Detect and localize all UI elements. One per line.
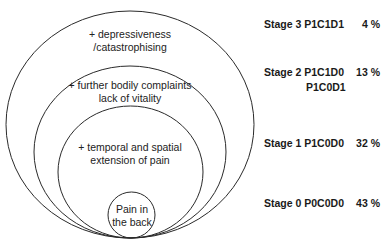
ring-label-line: lack of vitality bbox=[60, 92, 200, 105]
stage-1-label: Stage 1 P1C0D0 bbox=[264, 137, 344, 149]
stage-code: P1C1D1 bbox=[304, 18, 344, 30]
ring-label-line: Pain in bbox=[106, 203, 158, 216]
ring-label-line: /catastrophising bbox=[80, 41, 180, 54]
stage-3-percent: 4 % bbox=[340, 18, 380, 30]
stage-3-label: Stage 3 P1C1D1 bbox=[264, 18, 344, 30]
ring-label-stage1: + temporal and spatial extension of pain bbox=[70, 141, 190, 167]
ring-label-line: extension of pain bbox=[70, 154, 190, 167]
stage-code: P1C1D0 bbox=[304, 66, 344, 78]
stage-2-label: Stage 2 P1C1D0 bbox=[264, 66, 344, 78]
stage-2-code-alt: P1C0D1 bbox=[306, 81, 346, 93]
ring-label-line: + depressiveness bbox=[80, 28, 180, 41]
stage-0-label: Stage 0 P0C0D0 bbox=[264, 197, 344, 209]
stage-name: Stage 0 bbox=[264, 197, 301, 209]
ring-label-line: + further bodily complaints bbox=[60, 79, 200, 92]
stage-2-percent: 13 % bbox=[340, 66, 380, 78]
ring-label-stage2: + further bodily complaints lack of vita… bbox=[60, 79, 200, 105]
ring-label-stage3: + depressiveness /catastrophising bbox=[80, 28, 180, 54]
ring-label-stage0: Pain in the back bbox=[106, 203, 158, 229]
stage-code: P0C0D0 bbox=[304, 197, 344, 209]
stage-0-percent: 43 % bbox=[340, 197, 380, 209]
stage-code: P1C0D0 bbox=[304, 137, 344, 149]
stage-name: Stage 1 bbox=[264, 137, 301, 149]
ring-label-line: + temporal and spatial bbox=[70, 141, 190, 154]
stage-1-percent: 32 % bbox=[340, 137, 380, 149]
stage-name: Stage 2 bbox=[264, 66, 301, 78]
ring-label-line: the back bbox=[106, 216, 158, 229]
stage-name: Stage 3 bbox=[264, 18, 301, 30]
